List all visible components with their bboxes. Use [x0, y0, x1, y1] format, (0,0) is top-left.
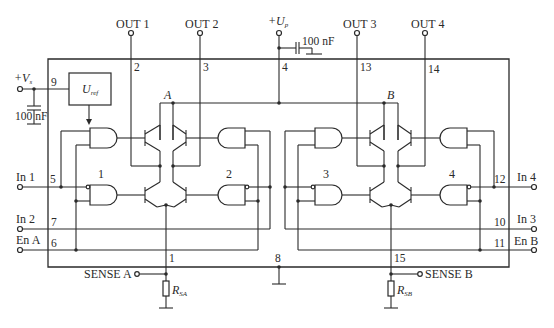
- svg-text:In 3: In 3: [517, 212, 536, 226]
- svg-text:12: 12: [494, 173, 506, 185]
- svg-text:1: 1: [169, 252, 175, 264]
- gate-group-1: 1: [98, 167, 104, 181]
- and-gate-1-upper: [90, 128, 117, 148]
- and-gate-2-upper: [218, 128, 245, 148]
- gate-group-3: 3: [323, 167, 329, 181]
- svg-text:8: 8: [275, 252, 281, 264]
- svg-text:4: 4: [282, 61, 288, 73]
- transistor-q3: [145, 167, 166, 207]
- svg-text:13: 13: [360, 61, 372, 73]
- svg-text:OUT 1: OUT 1: [116, 17, 149, 31]
- transistor-q7: [370, 167, 391, 207]
- sense-a-terminal: 1 SENSE A RSA: [84, 252, 188, 308]
- l298-block-diagram: OUT 1 2 OUT 2 3 OUT 3 13 OUT 4 14 +Up 10…: [0, 0, 554, 328]
- transistor-q2: [173, 125, 186, 167]
- circuit-schematic: OUT 1 2 OUT 2 3 OUT 3 13 OUT 4 14 +Up 10…: [0, 0, 554, 328]
- out3-terminal: OUT 3 13: [343, 17, 376, 140]
- svg-text:OUT 4: OUT 4: [411, 17, 444, 31]
- out2-terminal: OUT 2 3: [185, 17, 218, 140]
- and-gate-3-lower: [311, 185, 342, 205]
- svg-text:SENSE A: SENSE A: [84, 267, 132, 281]
- svg-text:10: 10: [494, 216, 506, 228]
- out1-terminal: OUT 1 2: [116, 17, 149, 140]
- and-gate-3-upper: [315, 128, 342, 148]
- svg-text:In 2: In 2: [16, 212, 35, 226]
- svg-text:SENSE B: SENSE B: [425, 267, 473, 281]
- gate-group-2: 2: [226, 167, 232, 181]
- gate-group-4: 4: [449, 167, 455, 181]
- transistor-q8: [391, 167, 411, 207]
- svg-text:+Up: +Up: [268, 14, 289, 29]
- svg-text:OUT 3: OUT 3: [343, 17, 376, 31]
- node-a: A: [163, 88, 172, 102]
- svg-text:100 nF: 100 nF: [15, 110, 47, 122]
- svg-text:7: 7: [51, 216, 57, 228]
- svg-text:15: 15: [394, 252, 406, 264]
- svg-text:6: 6: [51, 237, 57, 249]
- and-gate-4-upper: [440, 128, 467, 148]
- transistor-q1: [145, 125, 160, 167]
- logic-supply-terminal: +Vs 9 100 nF: [14, 71, 69, 124]
- voltage-regulator-block: Uref: [69, 73, 111, 125]
- svg-text:En B: En B: [514, 234, 538, 248]
- and-gate-2-lower: [218, 185, 249, 205]
- node-b: B: [387, 88, 395, 102]
- svg-text:100 nF: 100 nF: [302, 35, 334, 47]
- transistor-q4: [166, 167, 186, 207]
- svg-text:+Vs: +Vs: [14, 71, 32, 86]
- out4-terminal: OUT 4 14: [411, 17, 444, 140]
- svg-text:5: 5: [50, 173, 56, 185]
- svg-text:9: 9: [51, 76, 57, 88]
- and-gate-1-lower: [86, 185, 117, 205]
- svg-text:2: 2: [134, 61, 140, 73]
- ground-pin: 8: [272, 252, 286, 284]
- transistor-q6: [398, 125, 411, 167]
- svg-text:11: 11: [494, 237, 505, 249]
- svg-text:En A: En A: [16, 233, 41, 247]
- svg-text:RSA: RSA: [171, 283, 188, 298]
- svg-text:14: 14: [428, 63, 440, 75]
- svg-text:In 4: In 4: [517, 170, 536, 184]
- svg-text:3: 3: [203, 61, 209, 73]
- sense-b-terminal: 15 SENSE B RSB: [384, 252, 473, 308]
- svg-text:In 1: In 1: [16, 170, 35, 184]
- and-gate-4-lower: [440, 185, 471, 205]
- svg-text:OUT 2: OUT 2: [185, 17, 218, 31]
- transistor-q5: [370, 125, 384, 167]
- svg-text:RSB: RSB: [396, 283, 413, 298]
